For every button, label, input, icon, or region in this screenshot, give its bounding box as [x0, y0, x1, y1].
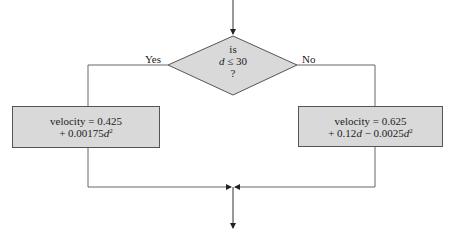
decision-text: is d ≤ 30 ? — [198, 43, 268, 79]
no-branch-line — [297, 65, 375, 106]
decision-condition: d ≤ 30 — [198, 55, 268, 67]
decision-line3: ? — [198, 67, 268, 79]
yes-branch-line — [88, 65, 168, 106]
no-coef2: − 0.0025 — [362, 127, 404, 139]
decision-operator: ≤ 30 — [224, 55, 247, 67]
decision-line1: is — [198, 43, 268, 55]
no-process-box: velocity = 0.625 + 0.12d − 0.0025d2 — [298, 106, 443, 147]
yes-coef: + 0.00175 — [59, 127, 104, 139]
no-formula-line1: velocity = 0.625 — [335, 115, 407, 127]
no-coef1: + 0.12 — [328, 127, 356, 139]
no-label: No — [302, 53, 315, 65]
yes-label: Yes — [145, 53, 161, 65]
no-exp: 2 — [409, 127, 413, 135]
yes-merge-line — [88, 148, 231, 187]
yes-process-box: velocity = 0.425 + 0.00175d2 — [12, 106, 160, 148]
no-formula-line2: + 0.12d − 0.0025d2 — [328, 127, 413, 139]
no-merge-line — [235, 147, 375, 187]
yes-formula-line2: + 0.00175d2 — [59, 127, 113, 139]
yes-exp: 2 — [109, 127, 113, 135]
yes-formula-line1: velocity = 0.425 — [50, 115, 122, 127]
